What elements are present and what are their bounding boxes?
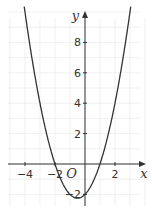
y-tick-label: 8 [74,36,81,49]
tick-labels: −4−22−22468Oxy [17,8,148,201]
y-tick-label: 2 [74,128,81,141]
y-axis-label: y [71,8,80,23]
parabola-chart: −4−22−22468Oxy [0,0,152,209]
y-tick-label: 6 [74,67,81,80]
y-tick-label: 4 [74,97,81,110]
y-tick-label: −2 [65,188,81,201]
x-tick-label: −2 [47,168,63,181]
x-axis-label: x [140,166,148,181]
x-tick-label: 2 [112,168,119,181]
x-tick-label: −4 [17,168,33,181]
origin-label: O [66,166,77,181]
